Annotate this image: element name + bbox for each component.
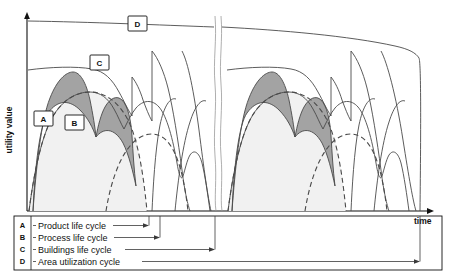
area-utilization-curve [28, 21, 214, 27]
legend-text-b: Process life cycle [38, 233, 108, 243]
legend-arrowhead-d [414, 259, 420, 264]
legend-arrowhead-c [209, 247, 215, 252]
axis-break-line-2 [220, 16, 222, 211]
legend-text-a: Product life cycle [38, 221, 106, 231]
x-axis-label: time [414, 216, 432, 226]
marker-a-label: A [41, 115, 47, 124]
legend-letter-a: A [20, 221, 26, 230]
marker-c[interactable]: C [90, 55, 109, 70]
marker-b-label: B [72, 119, 78, 128]
marker-a[interactable]: A [34, 111, 53, 126]
right-half-group [227, 51, 416, 211]
marker-c-label: C [97, 59, 103, 68]
marker-d-label: D [135, 20, 141, 29]
legend-letter-b: B [20, 233, 26, 242]
legend-letter-ticks [33, 226, 36, 262]
marker-d[interactable]: D [128, 16, 147, 31]
axis-break [214, 16, 222, 211]
y-axis-label: utility value [4, 106, 14, 153]
legend-text-d: Area utilization cycle [38, 257, 120, 267]
legend-text-c: Buildings life cycle [38, 245, 112, 255]
legend-arrowhead-a [143, 223, 149, 228]
left-half-group [28, 51, 211, 211]
life-cycle-diagram: utility value time [0, 0, 456, 274]
legend: A Product life cycle B Process life cycl… [14, 216, 442, 270]
legend-letter-d: D [20, 257, 26, 266]
axis-break-line-1 [214, 16, 216, 211]
marker-b[interactable]: B [65, 115, 84, 130]
buildings-decay-edge-left [182, 51, 211, 211]
y-axis-arrow [24, 12, 30, 19]
x-axis-arrow [427, 208, 434, 214]
figure-root: utility value time [0, 0, 456, 274]
legend-row-a[interactable]: A Product life cycle [20, 216, 149, 231]
legend-arrowhead-b [154, 235, 160, 240]
legend-letter-c: C [20, 245, 26, 254]
